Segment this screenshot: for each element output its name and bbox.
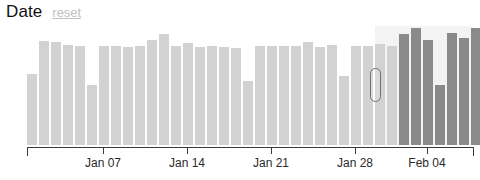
histogram-bars[interactable] [0, 26, 480, 145]
histogram-bar[interactable] [291, 46, 301, 145]
histogram-bar[interactable] [303, 42, 313, 145]
histogram-bar[interactable] [351, 46, 361, 145]
histogram-bar[interactable] [447, 33, 457, 145]
axis-tick [271, 147, 272, 154]
axis-tick-label: Jan 28 [337, 156, 373, 170]
date-histogram-widget[interactable]: Date reset Jan 07Jan 14Jan 21Jan 28Feb 0… [0, 0, 480, 180]
axis-tick-label: Jan 21 [253, 156, 289, 170]
histogram-bar[interactable] [183, 43, 193, 145]
histogram-bar[interactable] [171, 46, 181, 145]
plot-area[interactable] [0, 26, 480, 148]
histogram-bar[interactable] [75, 46, 85, 145]
histogram-bar[interactable] [399, 34, 409, 145]
axis-tick-label: Feb 04 [408, 156, 445, 170]
axis-line [27, 147, 473, 148]
histogram-bar[interactable] [111, 46, 121, 145]
page-title: Date [6, 2, 42, 22]
histogram-bar[interactable] [243, 81, 253, 145]
reset-link[interactable]: reset [52, 5, 81, 20]
histogram-bar[interactable] [339, 76, 349, 145]
x-axis: Jan 07Jan 14Jan 21Jan 28Feb 04 [0, 145, 480, 180]
histogram-bar[interactable] [411, 28, 421, 145]
axis-tick-start [27, 147, 28, 156]
axis-tick [187, 147, 188, 154]
histogram-bar[interactable] [231, 48, 241, 145]
axis-tick [103, 147, 104, 154]
axis-tick-label: Jan 14 [169, 156, 205, 170]
histogram-bar[interactable] [39, 41, 49, 145]
histogram-bar[interactable] [423, 40, 433, 145]
axis-tick [427, 147, 428, 154]
histogram-bar[interactable] [267, 46, 277, 145]
histogram-bar[interactable] [51, 42, 61, 145]
brush-left-handle[interactable] [370, 68, 381, 102]
axis-tick-end [473, 147, 474, 156]
histogram-bar[interactable] [471, 28, 480, 145]
histogram-bar[interactable] [207, 46, 217, 145]
histogram-bar[interactable] [459, 38, 469, 145]
histogram-bar[interactable] [219, 47, 229, 145]
histogram-bar[interactable] [315, 47, 325, 145]
histogram-bar[interactable] [279, 46, 289, 145]
axis-tick [355, 147, 356, 154]
histogram-bar[interactable] [63, 45, 73, 145]
histogram-bar[interactable] [159, 34, 169, 145]
histogram-bar[interactable] [255, 46, 265, 145]
chart-header: Date reset [6, 2, 81, 24]
histogram-bar[interactable] [135, 46, 145, 145]
histogram-bar[interactable] [327, 45, 337, 145]
histogram-bar[interactable] [195, 47, 205, 145]
histogram-bar[interactable] [387, 46, 397, 145]
histogram-bar[interactable] [123, 47, 133, 145]
histogram-bar[interactable] [147, 40, 157, 145]
histogram-bar[interactable] [87, 85, 97, 145]
histogram-bar[interactable] [435, 85, 445, 145]
histogram-bar[interactable] [99, 46, 109, 145]
histogram-bar[interactable] [27, 74, 37, 145]
axis-tick-label: Jan 07 [85, 156, 121, 170]
